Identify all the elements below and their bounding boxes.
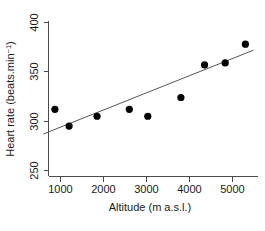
data-point [51,106,58,113]
scatter-plot: 250 300 350 400 1000 2000 3000 4000 5000… [0,0,265,231]
y-axis-title-tail: ) [4,41,16,45]
y-axis-title-superscript: −1 [4,45,13,54]
x-tick-label-2000: 2000 [91,183,115,195]
data-point [242,41,249,48]
x-tick-label-4000: 4000 [177,183,201,195]
data-point [66,123,73,130]
chart-container: 250 300 350 400 1000 2000 3000 4000 5000… [0,0,265,231]
x-axis-title: Altitude (m a.s.l.) [109,201,192,213]
y-axis-title-main: Heart rate (beats.min [4,53,16,156]
y-axis-ticks [44,23,49,171]
y-tick-label-250: 250 [28,161,40,179]
y-tick-label-300: 300 [28,112,40,130]
x-tick-label-3000: 3000 [134,183,158,195]
y-axis-tick-labels: 250 300 350 400 [28,13,40,179]
data-point [177,94,184,101]
x-tick-label-1000: 1000 [48,183,72,195]
y-tick-label-400: 400 [28,13,40,31]
data-point [93,113,100,120]
x-tick-label-5000: 5000 [220,183,244,195]
data-point-group [51,41,249,130]
data-point [144,113,151,120]
data-point [222,59,229,66]
data-point [126,106,133,113]
data-point [201,61,208,68]
x-axis-ticks [61,177,233,182]
y-axis-title: Heart rate (beats.min−1) [4,41,17,157]
x-axis-tick-labels: 1000 2000 3000 4000 5000 [48,183,244,195]
y-tick-label-350: 350 [28,62,40,80]
